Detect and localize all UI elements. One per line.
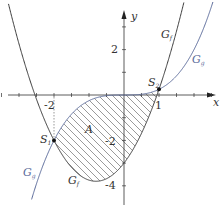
region-label-a: A [84, 123, 93, 136]
hatch-line [0, 0, 11, 211]
parabola-label-bottom: Gf [68, 174, 81, 188]
cubic-label-subscript-2: g [32, 172, 36, 180]
cubic-label-text-2: G [23, 166, 32, 179]
y-tick-label-neg2: -2 [105, 135, 116, 148]
point-label-s1: S1 [40, 133, 51, 146]
hatch-line [0, 0, 25, 211]
x-axis-label: x [213, 96, 220, 109]
hatch-line [0, 0, 179, 211]
svg-text:Gg: Gg [23, 166, 36, 180]
y-tick-label-neg4: -4 [105, 179, 116, 192]
parabola-label-top: Gf [161, 28, 174, 42]
hatch-line [73, 0, 221, 211]
svg-text:Gg: Gg [192, 53, 205, 67]
hatch-line [59, 0, 221, 211]
cubic-label-bottom: Gg [23, 166, 36, 180]
cubic-label-text: G [192, 53, 201, 66]
y-tick-label-2: 2 [111, 43, 118, 56]
parabola-label-text: G [161, 28, 170, 41]
point-s1 [52, 138, 56, 142]
hatch-line [0, 0, 67, 211]
hatch-line [136, 0, 221, 211]
parabola-label-text-2: G [68, 174, 77, 187]
svg-text:Gf: Gf [161, 28, 174, 42]
cubic-label-top: Gg [192, 53, 205, 67]
hatch-line [129, 0, 221, 211]
s1-label-subscript: 1 [48, 139, 52, 146]
plot-area: x y -2 1 2 -2 -4 A Gf Gf Gg Gg S1 S2 [0, 0, 221, 211]
x-tick-label-neg2: -2 [44, 99, 55, 112]
parabola-label-subscript: f [169, 34, 174, 42]
cubic-label-subscript: g [201, 59, 205, 67]
s2-label-subscript: 2 [155, 82, 160, 89]
curve-cubic [32, 2, 213, 199]
y-axis-label: y [130, 10, 138, 23]
x-tick-label-1: 1 [155, 99, 162, 112]
hatch-line [31, 0, 221, 211]
hatch-line [0, 0, 200, 211]
point-label-s2: S2 [148, 76, 160, 89]
parabola-label-subscript-2: f [76, 180, 81, 188]
hatch-line [220, 0, 221, 211]
svg-text:S1: S1 [40, 133, 51, 146]
hatch-line [0, 0, 165, 211]
function-graph-diagram: x y -2 1 2 -2 -4 A Gf Gf Gg Gg S1 S2 [0, 0, 221, 211]
svg-text:Gf: Gf [68, 174, 81, 188]
hatch-line [0, 0, 74, 211]
svg-text:S2: S2 [148, 76, 160, 89]
hatch-line [0, 0, 39, 211]
y-axis-arrow-icon [122, 10, 127, 19]
